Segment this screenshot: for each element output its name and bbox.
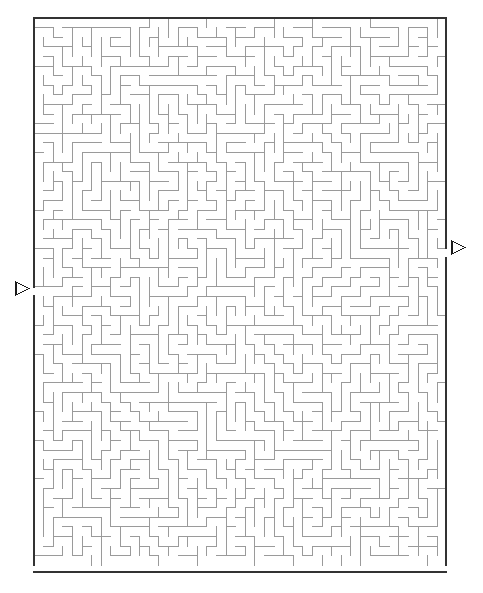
maze-page xyxy=(0,0,483,593)
maze-canvas xyxy=(0,0,483,593)
